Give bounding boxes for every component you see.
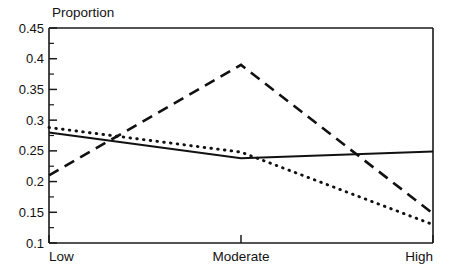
x-tick-label-1: Moderate [212, 249, 269, 264]
y-tick-label-7: 0.45 [19, 21, 44, 36]
y-tick-label-2: 0.2 [26, 174, 44, 189]
chart-background [0, 0, 450, 278]
y-tick-label-0: 0.1 [26, 236, 44, 251]
chart-container: Proportion 0.10.150.20.250.30.350.40.45 … [0, 0, 450, 278]
y-tick-label-3: 0.25 [19, 143, 44, 158]
y-tick-label-5: 0.35 [19, 82, 44, 97]
proportion-line-chart: Proportion 0.10.150.20.250.30.350.40.45 … [0, 0, 450, 278]
y-axis-title: Proportion [52, 5, 114, 20]
y-tick-label-4: 0.3 [26, 113, 44, 128]
x-tick-label-2: High [405, 249, 433, 264]
y-tick-label-6: 0.4 [26, 51, 44, 66]
y-tick-label-1: 0.15 [19, 205, 44, 220]
x-tick-label-0: Low [49, 249, 74, 264]
